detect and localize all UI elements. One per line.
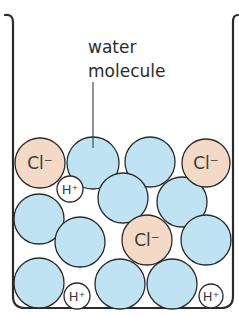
water-circle	[55, 217, 105, 267]
hydrogen-label: H⁺	[69, 289, 86, 304]
chloride-ion: Cl⁻	[182, 139, 230, 187]
water-circle	[181, 215, 231, 265]
diagram-canvas: Cl⁻Cl⁻Cl⁻H⁺H⁺H⁺ water molecule	[0, 0, 239, 316]
water-molecule	[181, 215, 231, 265]
hydrogen-label: H⁺	[62, 182, 79, 197]
hydrogen-ion: H⁺	[57, 176, 83, 202]
beaker-diagram: Cl⁻Cl⁻Cl⁻H⁺H⁺H⁺ water molecule	[0, 0, 239, 316]
hydrogen-ion: H⁺	[64, 283, 90, 309]
hydrogen-ion: H⁺	[199, 284, 223, 308]
particles-group: Cl⁻Cl⁻Cl⁻H⁺H⁺H⁺	[14, 137, 231, 309]
water-molecule	[14, 258, 64, 308]
chloride-label: Cl⁻	[193, 153, 219, 173]
chloride-ion: Cl⁻	[122, 215, 172, 265]
water-circle	[95, 259, 145, 309]
chloride-ion: Cl⁻	[15, 138, 65, 188]
water-molecule	[95, 259, 145, 309]
chloride-label: Cl⁻	[27, 153, 53, 173]
hydrogen-label: H⁺	[203, 289, 220, 304]
label-molecule: molecule	[88, 61, 165, 81]
water-molecule	[55, 217, 105, 267]
chloride-label: Cl⁻	[134, 230, 160, 250]
water-circle	[14, 258, 64, 308]
water-molecule	[147, 259, 197, 309]
label-water: water	[88, 37, 136, 57]
water-circle	[147, 259, 197, 309]
